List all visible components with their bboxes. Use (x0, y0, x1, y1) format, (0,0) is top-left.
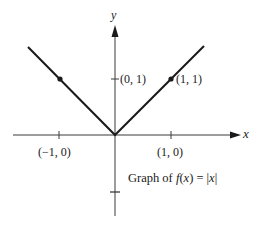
y-axis-arrow-icon (112, 25, 119, 37)
abs-function-line (28, 46, 204, 135)
x-axis-label: x (243, 127, 249, 140)
label-point-1-0: (1, 0) (157, 146, 183, 158)
caption-close: ) = | (189, 171, 209, 185)
x-axis-arrow-icon (230, 132, 241, 139)
y-axis-label: y (111, 9, 116, 21)
point-1-1 (168, 76, 173, 81)
point-neg1-1 (57, 76, 62, 81)
caption-prefix: Graph of (128, 171, 176, 185)
chart-caption: Graph of f(x) = |x| (128, 172, 217, 185)
label-point-1-1: (1, 1) (176, 73, 202, 85)
caption-end: | (215, 171, 218, 185)
label-point-0-1: (0, 1) (120, 73, 146, 85)
label-point-neg1-0: (−1, 0) (38, 146, 71, 158)
chart-plot-area (0, 0, 259, 229)
